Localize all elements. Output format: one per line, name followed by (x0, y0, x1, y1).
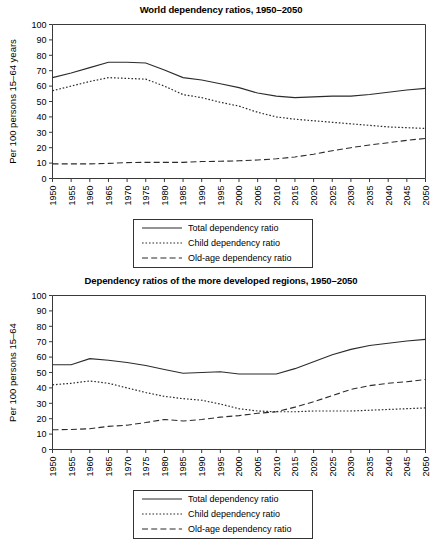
legend-item: Child dependency ratio (134, 506, 312, 521)
x-tick-label: 1980 (160, 186, 170, 206)
legend-label: Total dependency ratio (188, 223, 279, 233)
legend-label: Total dependency ratio (188, 494, 279, 504)
x-tick-label: 1955 (67, 457, 77, 477)
series-line (53, 339, 426, 374)
x-tick-label: 1990 (197, 186, 207, 206)
x-tick-label: 2045 (402, 457, 412, 477)
x-tick-label: 2030 (346, 186, 356, 206)
x-tick-label: 2005 (253, 186, 263, 206)
y-tick-label: 100 (31, 291, 46, 301)
legend-swatch-dotted (142, 238, 182, 248)
y-tick-label: 80 (36, 51, 46, 61)
x-tick-label: 2020 (309, 186, 319, 206)
legend-item: Total dependency ratio (134, 491, 312, 506)
y-tick-label: 40 (36, 383, 46, 393)
y-tick-label: 100 (31, 20, 46, 30)
x-tick-label: 1970 (123, 186, 133, 206)
y-tick-label: 10 (36, 158, 46, 168)
y-tick-label: 30 (36, 128, 46, 138)
y-tick-label: 90 (36, 306, 46, 316)
x-tick-label: 1975 (141, 457, 151, 477)
legend-item: Old-age dependency ratio (134, 250, 312, 265)
legend-item: Child dependency ratio (134, 235, 312, 250)
x-tick-label: 1980 (160, 457, 170, 477)
x-tick-label: 1960 (85, 457, 95, 477)
legend-label: Child dependency ratio (188, 238, 280, 248)
x-tick-label: 2010 (272, 457, 282, 477)
x-tick-label: 2015 (290, 457, 300, 477)
y-tick-label: 0 (41, 174, 46, 184)
x-tick-label: 2005 (253, 457, 263, 477)
x-tick-label: 2035 (365, 457, 375, 477)
x-tick-label: 1985 (178, 186, 188, 206)
x-tick-label: 2040 (384, 457, 394, 477)
x-tick-label: 2015 (290, 186, 300, 206)
x-tick-label: 1975 (141, 186, 151, 206)
figure-page: World dependency ratios, 1950–2050 01020… (0, 0, 442, 542)
y-tick-label: 30 (36, 399, 46, 409)
series-line (53, 78, 426, 129)
legend-swatch-dashed (142, 524, 182, 534)
y-tick-label: 70 (36, 337, 46, 347)
x-tick-label: 1995 (216, 186, 226, 206)
x-tick-label: 1965 (104, 457, 114, 477)
y-tick-label: 60 (36, 81, 46, 91)
legend-label: Child dependency ratio (188, 509, 280, 519)
legend-item: Old-age dependency ratio (134, 521, 312, 536)
y-tick-label: 50 (36, 97, 46, 107)
x-tick-label: 2010 (272, 186, 282, 206)
x-tick-label: 1950 (48, 186, 58, 206)
legend-swatch-solid (142, 494, 182, 504)
x-tick-label: 2020 (309, 457, 319, 477)
x-tick-label: 2050 (421, 186, 431, 206)
x-tick-label: 1985 (178, 457, 188, 477)
y-tick-label: 70 (36, 66, 46, 76)
x-tick-label: 1955 (67, 186, 77, 206)
y-tick-label: 40 (36, 112, 46, 122)
x-tick-label: 1970 (123, 457, 133, 477)
y-tick-label: 80 (36, 322, 46, 332)
x-tick-label: 2030 (346, 457, 356, 477)
series-line (53, 138, 426, 163)
chart-legend: Total dependency ratioChild dependency r… (133, 490, 313, 539)
x-tick-label: 1960 (85, 186, 95, 206)
legend-item: Total dependency ratio (134, 220, 312, 235)
legend-swatch-dashed (142, 253, 182, 263)
y-tick-label: 10 (36, 429, 46, 439)
y-tick-label: 20 (36, 143, 46, 153)
x-tick-label: 2045 (402, 186, 412, 206)
x-tick-label: 2025 (328, 186, 338, 206)
x-tick-label: 1965 (104, 186, 114, 206)
chart-panel-world: World dependency ratios, 1950–2050 01020… (0, 0, 442, 271)
y-tick-label: 50 (36, 368, 46, 378)
x-tick-label: 2035 (365, 186, 375, 206)
x-tick-label: 2000 (234, 457, 244, 477)
x-tick-label: 2040 (384, 186, 394, 206)
y-tick-label: 0 (41, 445, 46, 455)
series-line (53, 381, 426, 412)
y-tick-label: 90 (36, 35, 46, 45)
x-tick-label: 1990 (197, 457, 207, 477)
legend-swatch-dotted (142, 509, 182, 519)
x-tick-label: 2025 (328, 457, 338, 477)
series-line (53, 62, 426, 97)
x-tick-label: 2000 (234, 186, 244, 206)
series-line (53, 379, 426, 429)
legend-label: Old-age dependency ratio (188, 253, 292, 263)
y-tick-label: 60 (36, 352, 46, 362)
chart-panel-more-developed: Dependency ratios of the more developed … (0, 271, 442, 542)
y-tick-label: 20 (36, 414, 46, 424)
y-axis-label: Per 100 persons 15–64 years (7, 39, 18, 164)
y-axis-label: Per 100 persons 15–64 (7, 323, 18, 422)
x-tick-label: 1950 (48, 457, 58, 477)
x-tick-label: 1995 (216, 457, 226, 477)
legend-swatch-solid (142, 223, 182, 233)
chart-legend: Total dependency ratioChild dependency r… (133, 219, 313, 268)
x-tick-label: 2050 (421, 457, 431, 477)
legend-label: Old-age dependency ratio (188, 524, 292, 534)
